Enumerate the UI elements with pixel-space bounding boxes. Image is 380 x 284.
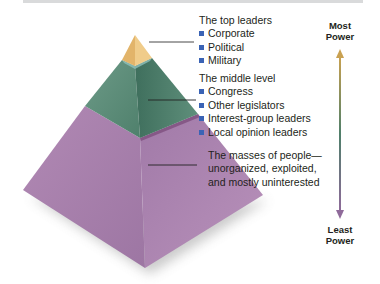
tier-middle-heading: The middle level bbox=[199, 72, 311, 85]
list-item: Corporate bbox=[199, 27, 272, 40]
most-power-label: Most Power bbox=[318, 20, 362, 42]
list-item: Congress bbox=[199, 85, 311, 98]
bullet-icon bbox=[199, 31, 204, 36]
bullet-icon bbox=[199, 103, 204, 108]
arrow-up-icon bbox=[336, 49, 344, 58]
list-item: Military bbox=[199, 54, 272, 67]
tier-bottom-label: The masses of people— unorganized, explo… bbox=[208, 149, 322, 189]
bullet-icon bbox=[199, 58, 204, 63]
arrow-down-icon bbox=[336, 210, 344, 219]
tier-top-heading: The top leaders bbox=[199, 14, 272, 27]
tier-top-label: The top leaders Corporate Political Mili… bbox=[199, 14, 272, 68]
bullet-icon bbox=[199, 89, 204, 94]
list-item: Interest-group leaders bbox=[199, 112, 311, 125]
bullet-icon bbox=[199, 130, 204, 135]
list-item: Political bbox=[199, 41, 272, 54]
bullet-icon bbox=[199, 45, 204, 50]
list-item: Other legislators bbox=[199, 99, 311, 112]
least-power-label: Least Power bbox=[318, 224, 362, 246]
list-item: Local opinion leaders bbox=[199, 126, 311, 139]
tier-middle-label: The middle level Congress Other legislat… bbox=[199, 72, 311, 139]
bullet-icon bbox=[199, 116, 204, 121]
power-arrow bbox=[336, 49, 344, 219]
